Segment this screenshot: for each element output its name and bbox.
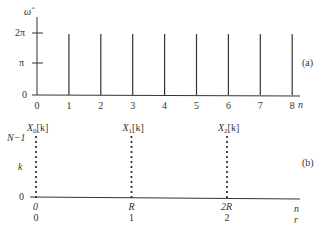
spectrum-dot — [35, 196, 37, 198]
omega-hat-label: ω̂ — [24, 6, 35, 17]
spectrum-dot — [35, 141, 37, 143]
spectrum-dot — [130, 196, 132, 198]
column-r-label: 0 — [34, 212, 39, 223]
spectrum-dot — [130, 191, 132, 193]
spectrum-dot — [226, 181, 228, 183]
spectrum-dot — [130, 171, 132, 173]
spectrum-dot — [226, 191, 228, 193]
panel-a-label: (a) — [302, 57, 313, 69]
spectrum-dot — [226, 161, 228, 163]
spectrum-column: X1[k]R1 — [122, 122, 144, 223]
spectrum-dot — [130, 186, 132, 188]
xtick-label-a: 2 — [98, 100, 103, 111]
ytick-label-0: 0 — [22, 89, 27, 100]
spectrum-dot — [35, 191, 37, 193]
xtick-label-a: 7 — [258, 100, 263, 111]
spectrum-dot — [35, 176, 37, 178]
xtick-label-a: 4 — [162, 100, 167, 111]
xtick-label-a: 3 — [130, 100, 135, 111]
spectrum-dot — [35, 136, 37, 138]
spectrum-dot — [35, 146, 37, 148]
spectrum-dot — [226, 186, 228, 188]
n-label-a: n — [298, 99, 303, 110]
column-title: X2[k] — [217, 122, 239, 135]
spectrum-dot — [130, 176, 132, 178]
xtick-label-a: 6 — [226, 100, 231, 111]
figure: ω̂ 2π π 0 012345678 n (a) N−1 k 0 X0[k]0… — [0, 0, 326, 233]
spectrum-dot — [226, 196, 228, 198]
n-axis-a — [37, 95, 300, 96]
column-r-label: 1 — [129, 212, 134, 223]
r-label-b: r — [294, 214, 298, 225]
spectrum-dot — [226, 146, 228, 148]
ytick-label-pi: π — [19, 57, 24, 68]
column-n-label: 2R — [221, 201, 232, 212]
spectrum-dot — [226, 166, 228, 168]
ytick-label-2pi: 2π — [15, 27, 25, 38]
spectrum-dot — [35, 181, 37, 183]
xtick-label-a: 8 — [290, 100, 295, 111]
spectrum-dot — [35, 171, 37, 173]
column-n-label: R — [128, 201, 135, 212]
spectrum-dot — [35, 186, 37, 188]
spectrum-column: X0[k]00 — [26, 122, 48, 223]
column-r-label: 2 — [225, 212, 230, 223]
spectrum-dot — [130, 156, 132, 158]
spectrum-dot — [35, 156, 37, 158]
spectrum-dot — [130, 136, 132, 138]
panel-b: N−1 k 0 X0[k]00X1[k]R1X2[k]2R2 n r (b) — [6, 122, 314, 225]
spectrum-dot — [130, 141, 132, 143]
spectrum-dot — [226, 156, 228, 158]
column-title: X1[k] — [122, 122, 144, 135]
n-minus-1-label: N−1 — [6, 132, 25, 143]
n-label-b: n — [294, 203, 299, 214]
n-axis-b — [30, 197, 300, 199]
panel-a: ω̂ 2π π 0 012345678 n (a) — [15, 6, 313, 111]
spectrum-dot — [226, 176, 228, 178]
xtick-label-a: 1 — [66, 100, 71, 111]
spectrum-column: X2[k]2R2 — [217, 122, 239, 223]
panel-b-label: (b) — [302, 157, 314, 169]
spectrum-dot — [35, 161, 37, 163]
spectrum-dot — [35, 166, 37, 168]
xtick-label-a: 5 — [194, 100, 199, 111]
spectrum-dot — [226, 171, 228, 173]
spectrum-dot — [130, 146, 132, 148]
spectrum-dot — [130, 161, 132, 163]
column-n-label: 0 — [33, 201, 38, 212]
spectrum-dot — [226, 141, 228, 143]
column-title: X0[k] — [26, 122, 48, 135]
spectrum-dot — [130, 166, 132, 168]
xtick-label-a: 0 — [35, 100, 40, 111]
spectrum-dot — [35, 151, 37, 153]
spectrum-dot — [130, 151, 132, 153]
spectrum-dot — [226, 151, 228, 153]
k-label: k — [18, 161, 23, 172]
k-zero-label: 0 — [19, 191, 24, 202]
spectrum-dot — [226, 136, 228, 138]
spectrum-dot — [130, 181, 132, 183]
